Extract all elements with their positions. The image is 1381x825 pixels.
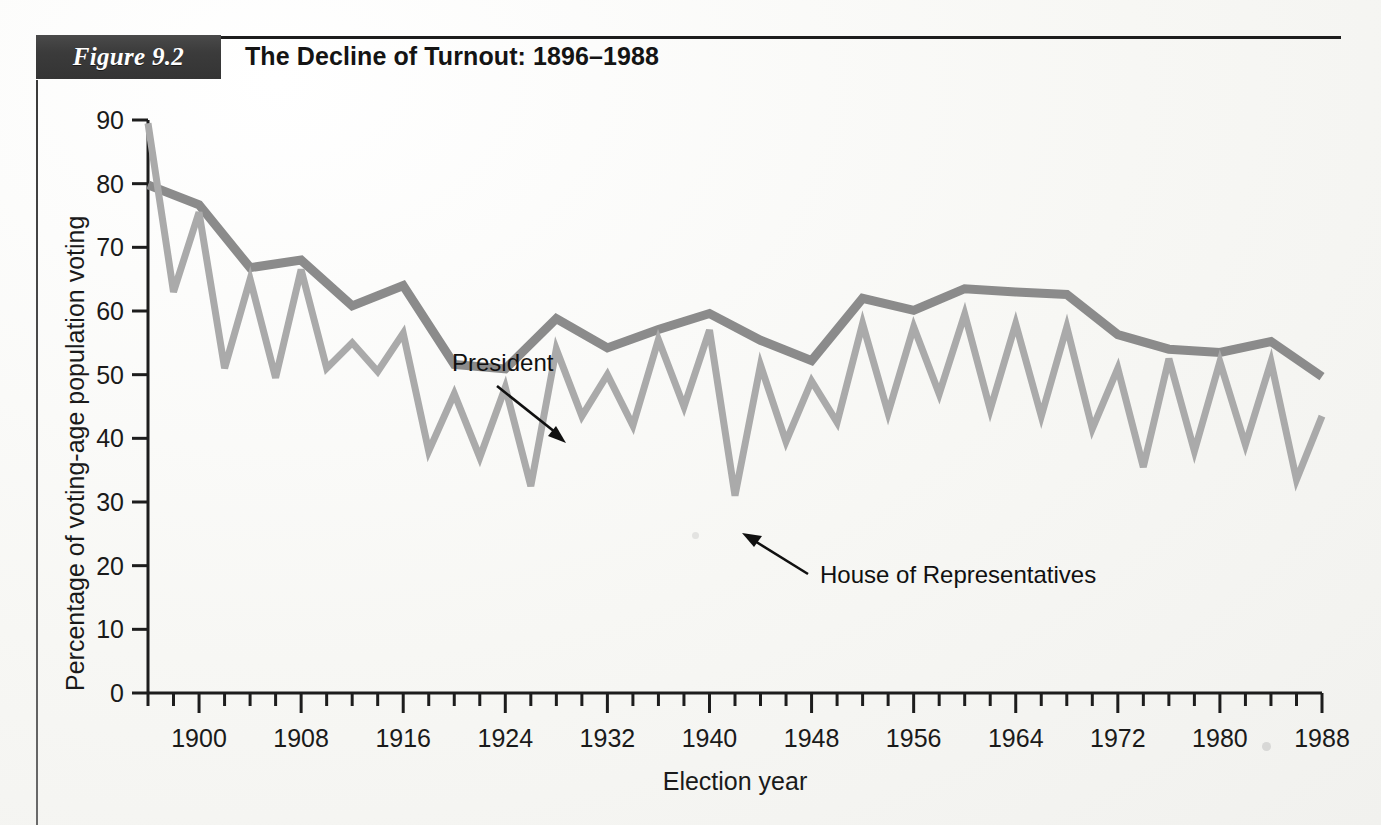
y-tick-label: 30	[96, 488, 124, 516]
y-tick-label: 50	[96, 361, 124, 389]
figure-number-label: Figure 9.2	[73, 43, 184, 71]
x-tick-label: 1964	[988, 724, 1044, 752]
x-tick-label: 1980	[1192, 724, 1248, 752]
y-tick-label: 60	[96, 297, 124, 325]
x-axis-title-group: Election year	[663, 767, 808, 795]
x-tick-label: 1956	[886, 724, 942, 752]
x-tick-label: 1916	[375, 724, 431, 752]
x-tick-label: 1988	[1294, 724, 1350, 752]
figure-number-badge: Figure 9.2	[36, 35, 221, 79]
series-line-house-of-representatives	[148, 123, 1322, 495]
x-tick-label: 1924	[477, 724, 533, 752]
y-tick-label: 10	[96, 615, 124, 643]
x-tick-label: 1972	[1090, 724, 1146, 752]
y-tick-label: 0	[110, 679, 124, 707]
data-series-group	[148, 123, 1322, 495]
y-axis-title-group: Percentage of voting-age population voti…	[61, 216, 89, 691]
annotation-label-president: President	[452, 349, 554, 376]
x-axis-ticks: 1900190819161924193219401948195619641972…	[148, 693, 1350, 752]
y-tick-label: 70	[96, 233, 124, 261]
y-tick-label: 20	[96, 552, 124, 580]
annotation-arrow-house	[750, 538, 808, 574]
x-tick-label: 1948	[784, 724, 840, 752]
y-axis-ticks: 0102030405060708090	[96, 106, 148, 707]
chart-container: Percentage of voting-age population voti…	[0, 96, 1381, 825]
axis-lines	[148, 120, 1322, 693]
x-axis-title: Election year	[663, 767, 808, 795]
figure-title: The Decline of Turnout: 1896–1988	[245, 42, 659, 71]
header-rule	[221, 36, 1341, 39]
annotation-label-house: House of Representatives	[820, 561, 1096, 588]
y-tick-label: 90	[96, 106, 124, 134]
y-axis-title: Percentage of voting-age population voti…	[61, 216, 89, 691]
x-tick-label: 1940	[682, 724, 738, 752]
y-tick-label: 80	[96, 170, 124, 198]
figure-header: Figure 9.2 The Decline of Turnout: 1896–…	[0, 0, 1381, 96]
x-tick-label: 1908	[273, 724, 329, 752]
scan-smudge	[692, 532, 699, 539]
scan-smudge	[1262, 742, 1271, 751]
x-tick-label: 1932	[580, 724, 636, 752]
x-tick-label: 1900	[171, 724, 227, 752]
line-chart: Percentage of voting-age population voti…	[0, 96, 1381, 825]
y-tick-label: 40	[96, 424, 124, 452]
